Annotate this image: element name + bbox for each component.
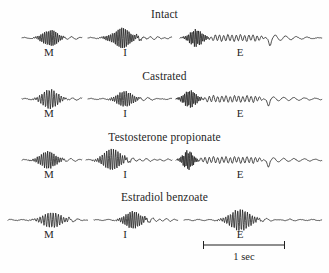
scale-bar-label: 1 sec bbox=[203, 251, 285, 262]
scale-bar: 1 sec bbox=[203, 240, 285, 262]
trace-label-i: I bbox=[123, 228, 127, 240]
trace-i bbox=[94, 211, 178, 228]
trace-e bbox=[184, 210, 322, 231]
scale-bar-graphic bbox=[203, 240, 285, 250]
waveform-figure: IntactMIECastratedMIETestosterone propio… bbox=[0, 0, 329, 273]
trace-label-e: E bbox=[237, 228, 244, 240]
trace-m bbox=[8, 213, 88, 228]
trace-label-m: M bbox=[44, 228, 54, 240]
